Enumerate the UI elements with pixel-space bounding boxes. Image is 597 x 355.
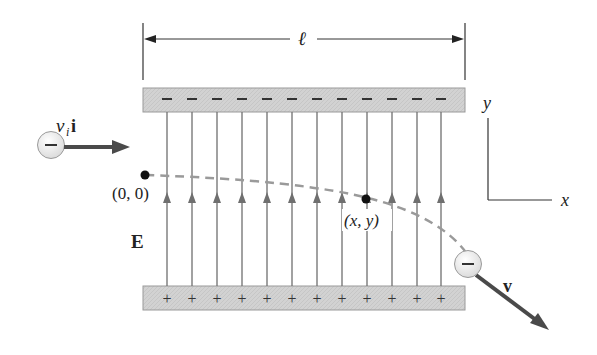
origin-label: (0, 0) xyxy=(112,184,149,203)
initial-velocity-label: v i i xyxy=(56,115,76,139)
plus-sign: + xyxy=(312,290,321,307)
velocity-arrow-icon xyxy=(112,140,130,154)
field-arrow-icon xyxy=(263,192,271,203)
outgoing-electron xyxy=(455,251,550,331)
field-label: E xyxy=(131,231,144,252)
svg-text:i: i xyxy=(71,116,76,136)
plus-sign: + xyxy=(262,290,271,307)
field-arrow-icon xyxy=(213,192,221,203)
field-arrow-icon xyxy=(188,192,196,203)
svg-text:i: i xyxy=(66,125,69,139)
position-point xyxy=(362,195,371,204)
plus-sign: + xyxy=(387,290,396,307)
length-label: ℓ xyxy=(298,28,306,49)
plus-sign: + xyxy=(212,290,221,307)
field-arrow-icon xyxy=(163,192,171,203)
svg-text:v: v xyxy=(56,115,65,136)
plus-sign: + xyxy=(412,290,421,307)
field-arrow-icon xyxy=(238,192,246,203)
plus-sign: + xyxy=(337,290,346,307)
arrow-left-icon xyxy=(144,35,156,43)
electron-trajectory xyxy=(145,175,470,258)
coordinate-axes: y x xyxy=(481,93,569,210)
position-label: (x, y) xyxy=(344,211,379,230)
y-axis-label: y xyxy=(481,93,491,113)
x-axis-label: x xyxy=(560,190,569,210)
plus-sign: + xyxy=(187,290,196,307)
electric-field-lines xyxy=(163,112,445,286)
arrow-right-icon xyxy=(452,35,464,43)
plus-sign: + xyxy=(287,290,296,307)
final-velocity-label: v xyxy=(503,276,512,296)
field-arrow-icon xyxy=(413,192,421,203)
field-arrow-icon xyxy=(288,192,296,203)
field-arrow-icon xyxy=(388,192,396,203)
plus-sign: + xyxy=(162,290,171,307)
plus-sign: + xyxy=(436,290,445,307)
plus-sign: + xyxy=(362,290,371,307)
incoming-electron xyxy=(38,132,131,159)
field-arrow-icon xyxy=(313,192,321,203)
deflection-diagram: ℓ ++++++++++++ (0, 0) (x, y) v i i E v xyxy=(0,0,597,355)
plus-sign: + xyxy=(237,290,246,307)
origin-point xyxy=(141,171,150,180)
length-dimension: ℓ xyxy=(143,23,465,80)
field-arrow-icon xyxy=(437,192,445,203)
